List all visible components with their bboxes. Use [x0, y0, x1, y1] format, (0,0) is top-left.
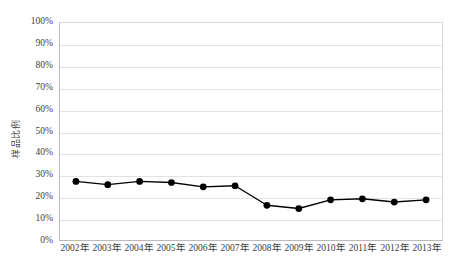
x-axis-tick-9: 2011年: [349, 244, 378, 254]
y-axis-tick-90: 90%: [36, 39, 53, 49]
data-point-2010年: [327, 196, 334, 203]
y-axis-tick-100: 100%: [31, 17, 53, 27]
data-point-2008年: [264, 202, 271, 209]
x-axis-tick-labels: 2002年2003年2004年2005年2006年2007年2008年2009年…: [59, 244, 443, 268]
line-chart: 样品比例 0%10%20%30%40%50%60%70%80%90%100% 2…: [0, 0, 458, 276]
x-axis-tick-0: 2002年: [61, 244, 90, 254]
x-axis-tick-5: 2007年: [221, 244, 250, 254]
x-axis-tick-1: 2003年: [93, 244, 122, 254]
y-axis-tick-80: 80%: [36, 61, 53, 71]
data-point-2006年: [200, 183, 207, 190]
y-axis-tick-30: 30%: [36, 171, 53, 181]
y-axis-tick-20: 20%: [36, 192, 53, 202]
x-axis-tick-8: 2010年: [317, 244, 346, 254]
x-axis-tick-7: 2009年: [285, 244, 314, 254]
x-axis-tick-4: 2006年: [189, 244, 218, 254]
data-point-2005年: [168, 179, 175, 186]
y-axis-tick-10: 10%: [36, 214, 53, 224]
y-axis-tick-40: 40%: [36, 149, 53, 159]
x-axis-tick-10: 2012年: [381, 244, 410, 254]
series-line-2002-2013: [60, 23, 442, 240]
plot-area: [59, 22, 443, 241]
y-axis-tick-labels: 0%10%20%30%40%50%60%70%80%90%100%: [20, 22, 56, 241]
series-line: [76, 181, 426, 208]
y-axis-tick-50: 50%: [36, 127, 53, 137]
data-point-2009年: [295, 205, 302, 212]
data-point-2011年: [359, 195, 366, 202]
data-point-2004年: [136, 178, 143, 185]
x-axis-tick-11: 2013年: [413, 244, 442, 254]
data-point-2013年: [423, 196, 430, 203]
data-point-2007年: [232, 182, 239, 189]
data-point-2012年: [391, 199, 398, 206]
data-point-2003年: [104, 181, 111, 188]
x-axis-tick-2: 2004年: [125, 244, 154, 254]
y-axis-tick-0: 0%: [40, 236, 53, 246]
x-axis-tick-6: 2008年: [253, 244, 282, 254]
x-axis-tick-3: 2005年: [157, 244, 186, 254]
data-point-2002年: [73, 178, 80, 185]
y-axis-tick-70: 70%: [36, 83, 53, 93]
y-axis-tick-60: 60%: [36, 105, 53, 115]
